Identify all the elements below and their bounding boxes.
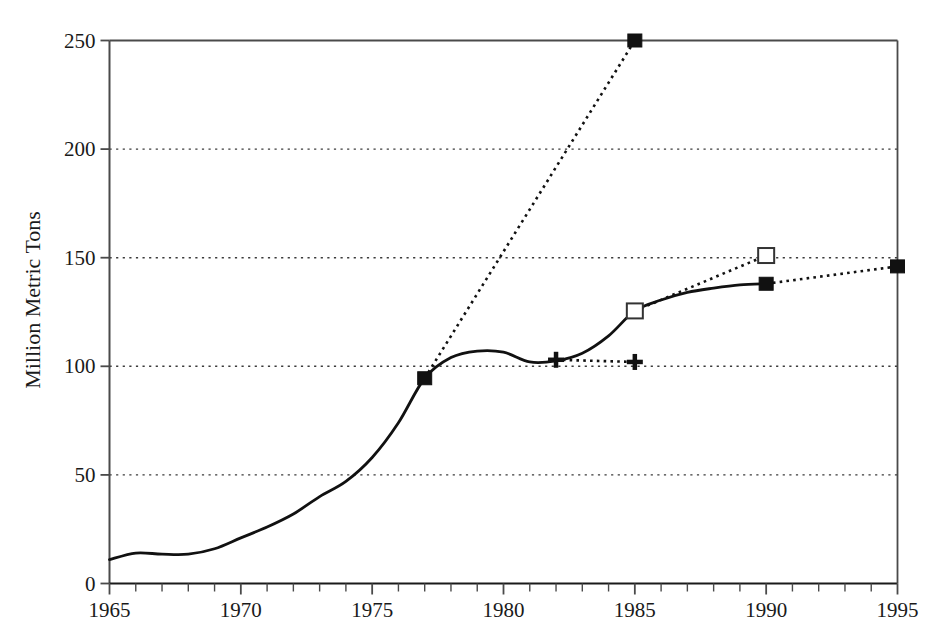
marker-1985-plus xyxy=(627,354,643,370)
series-line-projection-low xyxy=(766,266,897,283)
x-axis-tick-label: 1965 xyxy=(89,598,131,622)
y-axis-tick-label: 250 xyxy=(64,29,96,53)
chart-container: 0501001502002501965197019751980198519901… xyxy=(0,0,932,638)
x-axis-tick-label: 1970 xyxy=(220,598,262,622)
x-axis-tick-label: 1995 xyxy=(877,598,919,622)
x-axis-tick-label: 1975 xyxy=(351,598,393,622)
chart-plot-svg: 0501001502002501965197019751980198519901… xyxy=(0,0,932,638)
marker-1985-open-square xyxy=(627,303,643,318)
x-axis-tick-label: 1990 xyxy=(745,598,787,622)
marker-1985-filled-square xyxy=(628,34,642,47)
y-axis-tick-label: 0 xyxy=(85,572,96,596)
x-axis-tick-label: 1980 xyxy=(483,598,525,622)
x-axis-tick-label: 1985 xyxy=(614,598,656,622)
y-axis-tick-label: 200 xyxy=(64,137,96,161)
y-axis-tick-label: 100 xyxy=(64,354,96,378)
y-axis-tick-label: 50 xyxy=(75,463,96,487)
y-axis-tick-label: 150 xyxy=(64,246,96,270)
marker-1995-filled-square xyxy=(891,260,905,273)
marker-1990-filled-square xyxy=(759,277,773,290)
marker-1982-plus xyxy=(548,352,564,368)
marker-1990-open-square xyxy=(758,248,774,263)
y-axis-title: Million Metric Tons xyxy=(20,211,45,389)
marker-1977-filled-square xyxy=(418,372,432,385)
series-line-projection-high xyxy=(425,41,635,379)
series-line-projection-flat xyxy=(556,360,635,362)
series-line-historical xyxy=(110,284,767,560)
